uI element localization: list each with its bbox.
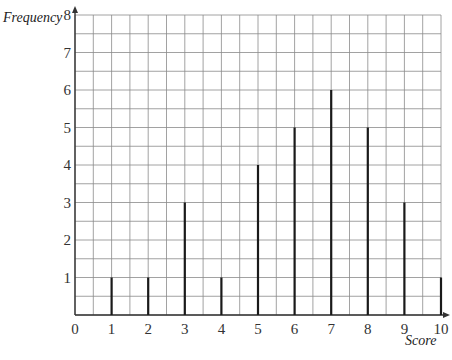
y-tick-label: 2 [64, 232, 72, 248]
y-tick-label: 4 [64, 157, 72, 173]
x-tick-label: 6 [291, 321, 299, 337]
x-tick-label: 5 [254, 321, 262, 337]
x-tick-label: 3 [181, 321, 189, 337]
y-axis-label: Frequency [2, 10, 63, 25]
y-tick-labels: 12345678 [64, 7, 72, 286]
x-tick-label: 4 [218, 321, 226, 337]
y-tick-label: 6 [64, 82, 72, 98]
y-tick-label: 5 [64, 120, 72, 136]
x-tick-label: 7 [327, 321, 335, 337]
frequency-chart: 012345678910 12345678 Frequency Score [0, 0, 452, 360]
y-tick-label: 7 [64, 45, 72, 61]
y-axis-arrow-icon [72, 6, 78, 13]
y-tick-label: 1 [64, 270, 72, 286]
x-axis-label: Score [405, 333, 436, 348]
y-tick-label: 8 [64, 7, 72, 23]
x-axis-arrow-icon [443, 312, 450, 318]
y-tick-label: 3 [64, 195, 72, 211]
x-tick-label: 0 [71, 321, 79, 337]
x-tick-labels: 012345678910 [71, 321, 448, 337]
x-tick-label: 1 [108, 321, 116, 337]
x-tick-label: 8 [364, 321, 372, 337]
x-tick-label: 2 [144, 321, 152, 337]
